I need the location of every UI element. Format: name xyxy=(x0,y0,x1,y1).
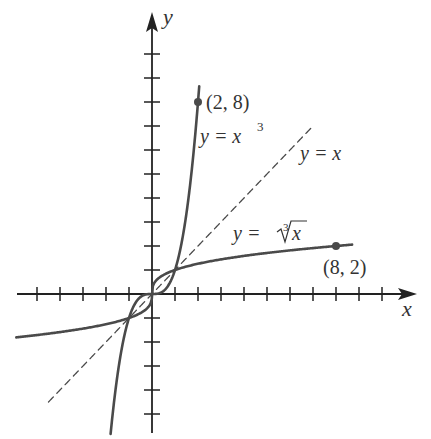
cube-root-curve xyxy=(16,245,352,338)
identity-label: y = x xyxy=(298,142,341,165)
axes xyxy=(17,12,417,433)
point-marker xyxy=(332,242,340,250)
svg-text:3: 3 xyxy=(257,119,264,134)
labels: y x (2, 8) (8, 2) y = x 3 y = x y = 3 x xyxy=(161,4,412,321)
point-label-8-2: (8, 2) xyxy=(323,256,366,279)
x-axis-label: x xyxy=(401,296,412,321)
curves xyxy=(16,86,352,434)
cube-root-label: y = 3 x xyxy=(231,221,307,245)
identity-line xyxy=(49,126,314,402)
svg-text:y = x: y = x xyxy=(198,125,241,148)
chart: y x (2, 8) (8, 2) y = x 3 y = x y = 3 x xyxy=(0,0,431,439)
cubic-label: y = x 3 xyxy=(198,119,264,148)
svg-text:y =: y = xyxy=(231,222,260,245)
point-marker xyxy=(194,98,202,106)
point-label-2-8: (2, 8) xyxy=(206,91,249,114)
plot-area: y x (2, 8) (8, 2) y = x 3 y = x y = 3 x xyxy=(0,0,431,439)
cubic-curve xyxy=(111,86,200,434)
y-axis-label: y xyxy=(161,4,173,29)
svg-text:x: x xyxy=(291,222,301,244)
